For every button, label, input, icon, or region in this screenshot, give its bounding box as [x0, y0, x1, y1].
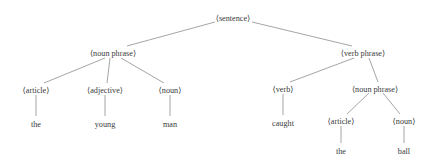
terminal-ball: ball — [398, 147, 411, 156]
node-verb-phrase: ⟨verb phrase⟩ — [341, 49, 385, 58]
node-adjective: ⟨adjective⟩ — [87, 86, 123, 95]
node-noun-right: ⟨noun⟩ — [393, 117, 416, 126]
edge-verb-phrase-to-noun-phrase — [369, 58, 378, 82]
node-article: ⟨article⟩ — [23, 86, 50, 95]
edge-noun-phrase-to-adjective — [107, 58, 110, 83]
terminal-the-second: the — [336, 147, 346, 156]
terminal-man: man — [163, 120, 177, 129]
edge-noun-phrase-to-article-right — [347, 93, 369, 114]
edge-noun-phrase-to-noun-right — [383, 93, 400, 114]
terminal-the-first: the — [31, 120, 41, 129]
node-noun: ⟨noun⟩ — [159, 86, 182, 95]
edge-sentence-to-verb-phrase — [252, 22, 352, 46]
terminal-young: young — [95, 120, 115, 129]
node-noun-phrase-right: ⟨noun phrase⟩ — [352, 85, 398, 94]
edge-sentence-to-noun-phrase — [127, 22, 215, 46]
edge-noun-phrase-to-article — [44, 58, 105, 83]
node-verb: ⟨verb⟩ — [273, 85, 294, 94]
node-sentence: ⟨sentence⟩ — [216, 14, 251, 23]
tree-node-labels: ⟨sentence⟩ ⟨noun phrase⟩ ⟨verb phrase⟩ ⟨… — [23, 14, 416, 156]
node-noun-phrase: ⟨noun phrase⟩ — [90, 49, 136, 58]
parse-tree-canvas: ⟨sentence⟩ ⟨noun phrase⟩ ⟨verb phrase⟩ ⟨… — [0, 0, 430, 160]
node-article-right: ⟨article⟩ — [328, 117, 355, 126]
parse-tree-diagram: ⟨sentence⟩ ⟨noun phrase⟩ ⟨verb phrase⟩ ⟨… — [0, 0, 430, 160]
terminal-caught: caught — [272, 119, 295, 128]
edge-noun-phrase-to-noun — [121, 58, 164, 83]
edge-verb-phrase-to-verb — [290, 58, 354, 82]
